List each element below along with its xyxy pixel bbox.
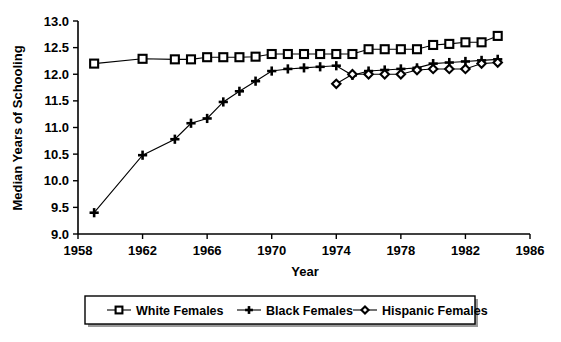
y-tick-label: 10.0 [44,173,69,188]
x-axis: 19581962196619701974197819821986 [64,234,545,258]
x-tick-label: 1958 [64,243,93,258]
y-tick-label: 9.5 [51,200,69,215]
marker-diamond [429,65,437,73]
marker-diamond [381,70,389,78]
chart-figure: 9.09.510.010.511.011.512.012.513.0 19581… [0,0,561,342]
line-chart-svg: 9.09.510.010.511.011.512.012.513.0 19581… [0,0,561,342]
data-series-group [90,32,503,217]
marker-diamond [361,306,368,313]
x-tick-label: 1986 [516,243,545,258]
marker-square [429,41,437,49]
legend-label: Black Females [266,304,353,318]
marker-square [445,40,453,48]
marker-square [116,307,123,314]
marker-square [332,50,340,58]
marker-diamond [445,65,453,73]
legend-label: Hispanic Females [382,304,488,318]
marker-square [219,53,227,61]
marker-square [90,60,98,68]
marker-square [381,45,389,53]
y-axis: 9.09.510.010.511.011.512.012.513.0 [44,14,78,242]
marker-square [478,38,486,46]
series-hispanic-females [332,58,502,88]
chart-legend: White FemalesBlack FemalesHispanic Femal… [85,296,488,327]
series-black-females [90,55,503,218]
marker-square [300,50,308,58]
marker-diamond [397,70,405,78]
marker-square [316,50,324,58]
cropped-title-remnant [180,0,540,7]
marker-square [413,45,421,53]
marker-square [461,38,469,46]
legend-label: White Females [136,304,224,318]
y-axis-label: Median Years of Schooling [10,45,25,210]
marker-square [235,53,243,61]
marker-square [139,55,147,63]
y-tick-label: 10.5 [44,147,69,162]
x-tick-label: 1966 [193,243,222,258]
x-axis-label: Year [291,264,318,279]
marker-square [397,45,405,53]
marker-square [348,50,356,58]
marker-square [252,53,260,61]
series-white-females [90,32,502,68]
marker-plus [235,87,244,96]
marker-plus [332,61,341,70]
y-tick-label: 11.5 [44,93,69,108]
x-tick-label: 1982 [451,243,480,258]
y-tick-label: 12.5 [44,40,69,55]
marker-square [203,53,211,61]
x-tick-label: 1970 [257,243,286,258]
marker-diamond [461,65,469,73]
x-tick-label: 1974 [322,243,352,258]
marker-plus [283,64,292,73]
marker-plus [251,77,260,86]
marker-square [187,55,195,63]
y-tick-label: 9.0 [51,227,69,242]
y-tick-label: 13.0 [44,14,69,29]
marker-plus [299,63,308,72]
marker-diamond [348,70,356,78]
x-tick-label: 1962 [128,243,157,258]
marker-square [268,50,276,58]
marker-diamond [332,80,340,88]
marker-plus [267,66,276,75]
marker-plus [316,62,325,71]
marker-square [365,45,373,53]
y-tick-label: 11.0 [44,120,69,135]
marker-square [494,32,502,40]
x-tick-label: 1978 [386,243,415,258]
y-tick-label: 12.0 [44,67,69,82]
marker-square [171,55,179,63]
marker-square [284,50,292,58]
